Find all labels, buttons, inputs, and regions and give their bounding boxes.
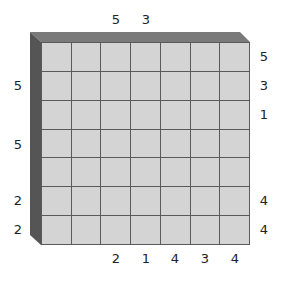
grid-cell[interactable]	[41, 157, 71, 186]
grid-cell[interactable]	[100, 42, 130, 71]
grid-cell[interactable]	[130, 129, 160, 158]
grid-cell[interactable]	[71, 215, 101, 244]
grid-cell[interactable]	[160, 157, 190, 186]
clue-right-1: 3	[249, 78, 279, 94]
grid-cell[interactable]	[190, 71, 220, 100]
grid-cell[interactable]	[130, 157, 160, 186]
clue-left-5: 2	[3, 193, 33, 209]
clue-bottom-2: 2	[101, 251, 131, 267]
grid-cell[interactable]	[41, 42, 71, 71]
clue-right-5: 4	[249, 193, 279, 209]
grid-cell[interactable]	[219, 71, 249, 100]
grid-cell[interactable]	[130, 215, 160, 244]
grid-cell[interactable]	[71, 129, 101, 158]
grid-cell[interactable]	[160, 42, 190, 71]
grid-cell[interactable]	[100, 129, 130, 158]
clue-bottom-5: 3	[190, 251, 220, 267]
grid-cell[interactable]	[160, 71, 190, 100]
clue-left-6: 2	[3, 222, 33, 238]
grid-cell[interactable]	[190, 100, 220, 129]
grid-cell[interactable]	[41, 186, 71, 215]
grid-cell[interactable]	[71, 100, 101, 129]
clue-bottom-6: 4	[220, 251, 250, 267]
grid-cell[interactable]	[100, 157, 130, 186]
grid-cell[interactable]	[160, 100, 190, 129]
grid-cell[interactable]	[130, 186, 160, 215]
clue-bottom-4: 4	[160, 251, 190, 267]
grid-cell[interactable]	[160, 186, 190, 215]
grid-cell[interactable]	[219, 215, 249, 244]
grid-cell[interactable]	[190, 42, 220, 71]
grid-cell[interactable]	[219, 129, 249, 158]
grid-cell[interactable]	[190, 186, 220, 215]
grid-cell[interactable]	[219, 186, 249, 215]
grid-cell[interactable]	[219, 42, 249, 71]
clue-top-3: 3	[131, 12, 161, 28]
puzzle-grid	[41, 42, 250, 245]
grid-cell[interactable]	[100, 71, 130, 100]
grid-cell[interactable]	[41, 129, 71, 158]
clue-top-2: 5	[101, 12, 131, 28]
grid-cell[interactable]	[190, 157, 220, 186]
grid-cell[interactable]	[71, 71, 101, 100]
grid-cell[interactable]	[190, 215, 220, 244]
clue-right-0: 5	[249, 49, 279, 65]
grid-cell[interactable]	[219, 100, 249, 129]
grid-cell[interactable]	[100, 215, 130, 244]
grid-cell[interactable]	[100, 100, 130, 129]
clue-bottom-3: 1	[131, 251, 161, 267]
grid-cell[interactable]	[190, 129, 220, 158]
grid-cell[interactable]	[160, 215, 190, 244]
grid-cell[interactable]	[71, 42, 101, 71]
clue-left-1: 5	[3, 78, 33, 94]
grid-cell[interactable]	[71, 186, 101, 215]
grid-cell[interactable]	[100, 186, 130, 215]
clue-left-3: 5	[3, 137, 33, 153]
grid-cell[interactable]	[41, 100, 71, 129]
grid-cell[interactable]	[219, 157, 249, 186]
grid-cell[interactable]	[71, 157, 101, 186]
clue-right-6: 4	[249, 222, 279, 238]
grid-cell[interactable]	[130, 100, 160, 129]
grid-cell[interactable]	[41, 215, 71, 244]
grid-cell[interactable]	[130, 71, 160, 100]
grid-cell[interactable]	[160, 129, 190, 158]
grid-cell[interactable]	[41, 71, 71, 100]
grid-cell[interactable]	[130, 42, 160, 71]
clue-right-2: 1	[249, 107, 279, 123]
